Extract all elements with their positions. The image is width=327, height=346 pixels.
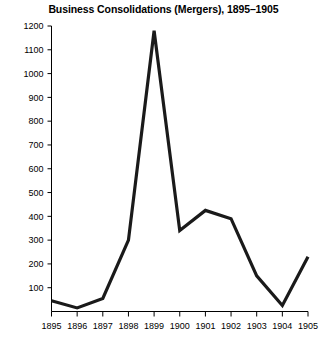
y-tick-label: 500 (28, 188, 43, 198)
y-tick-label: 800 (28, 116, 43, 126)
y-tick-label: 1100 (24, 45, 43, 55)
line-chart-plot: 100200300400500600700800900100011001200 … (0, 0, 327, 346)
x-tick-label: 1901 (195, 321, 215, 331)
x-tick-label: 1904 (272, 321, 292, 331)
y-tick-label: 200 (28, 259, 43, 269)
y-tick-label: 300 (28, 235, 43, 245)
x-tick-label: 1902 (221, 321, 241, 331)
x-axis: 1895189618971898189919001901190219031904… (41, 312, 318, 331)
x-tick-label: 1898 (118, 321, 138, 331)
data-series-line (52, 31, 309, 308)
x-tick-label: 1903 (247, 321, 267, 331)
x-tick-label: 1900 (170, 321, 190, 331)
y-tick-label: 600 (28, 164, 43, 174)
y-axis: 100200300400500600700800900100011001200 (23, 21, 51, 311)
data-series-group (52, 31, 309, 308)
x-tick-label: 1905 (298, 321, 318, 331)
x-tick-label: 1899 (144, 321, 164, 331)
x-tick-label: 1896 (67, 321, 87, 331)
x-tick-label: 1895 (41, 321, 61, 331)
x-tick-label: 1897 (93, 321, 113, 331)
y-tick-label: 1200 (23, 21, 43, 31)
y-tick-label: 900 (28, 93, 43, 103)
chart-container: Business Consolidations (Mergers), 1895–… (0, 0, 327, 346)
y-tick-label: 700 (28, 140, 43, 150)
y-tick-label: 400 (28, 212, 43, 222)
y-tick-label: 1000 (23, 69, 43, 79)
y-tick-label: 100 (28, 283, 43, 293)
